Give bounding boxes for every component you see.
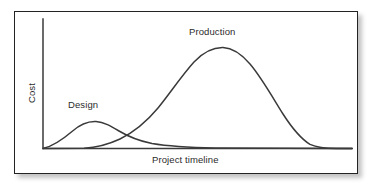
design-curve — [44, 122, 353, 149]
y-axis-label: Cost — [26, 83, 37, 103]
x-axis-label: Project timeline — [152, 154, 219, 165]
figure-root: Cost Project timeline Design Production — [0, 0, 374, 186]
design-curve-label: Design — [68, 99, 98, 110]
production-curve-label: Production — [189, 26, 235, 37]
